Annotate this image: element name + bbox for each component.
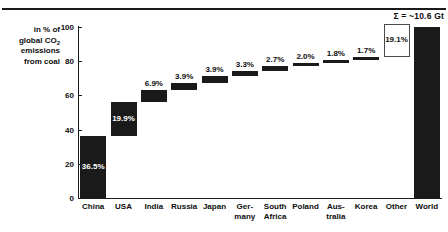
y-axis-tick-label: 80 xyxy=(52,57,74,66)
y-axis-tick-label: 40 xyxy=(52,125,74,134)
bar-germany[interactable] xyxy=(232,71,258,77)
value-label-korea: 1.7% xyxy=(346,46,386,55)
y-axis-tick-label: 100 xyxy=(52,23,74,32)
value-label-other: 19.1% xyxy=(377,35,417,44)
bar-india[interactable] xyxy=(141,90,167,102)
bar-world[interactable] xyxy=(414,27,440,198)
bar-russia[interactable] xyxy=(171,83,197,90)
x-axis-line xyxy=(78,198,442,199)
waterfall-chart-figure: Σ = ~10.6 Gt in % of global CO2 emission… xyxy=(0,0,448,232)
y-axis-tick-mark xyxy=(78,61,82,62)
y-axis-tick-mark xyxy=(78,198,82,199)
bar-poland[interactable] xyxy=(293,63,319,66)
y-axis-tick-labels: 020406080100 xyxy=(50,0,74,232)
value-label-usa: 19.9% xyxy=(104,114,144,123)
y-axis-tick-label: 60 xyxy=(52,91,74,100)
bar-south-africa[interactable] xyxy=(262,66,288,71)
bar-japan[interactable] xyxy=(202,76,228,83)
y-axis-tick-label: 20 xyxy=(52,159,74,168)
category-label-world: World xyxy=(408,202,446,212)
bar-australia[interactable] xyxy=(323,60,349,63)
value-label-china: 36.5% xyxy=(73,162,113,171)
y-axis-tick-label: 0 xyxy=(52,194,74,203)
bar-korea[interactable] xyxy=(353,57,379,60)
y-axis-tick-mark xyxy=(78,27,82,28)
sum-annotation: Σ = ~10.6 Gt xyxy=(394,11,445,21)
y-axis-tick-mark xyxy=(78,130,82,131)
y-axis-tick-mark xyxy=(78,95,82,96)
